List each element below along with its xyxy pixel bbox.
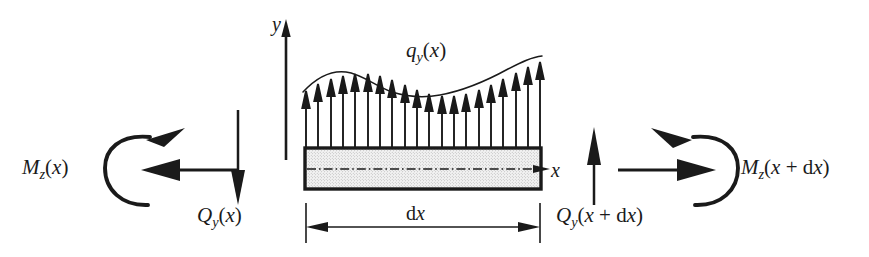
- shear-right-plus: +: [594, 203, 616, 227]
- shear-left-paren-close: ): [235, 203, 242, 227]
- beam-element-equilibrium-figure: Mz(x) Mz(x + dx) Qy(x) Qy(x + dx) qy(x) …: [0, 0, 869, 257]
- moment-right-symbol: M: [741, 155, 759, 179]
- bending-moment-left: [105, 128, 238, 205]
- moment-right-label: Mz(x + dx): [741, 157, 830, 181]
- bending-moment-right: [618, 128, 738, 205]
- distributed-load-argument: x: [430, 38, 439, 62]
- distributed-load-arrows: [302, 62, 543, 148]
- moment-right-differential-x: x: [813, 155, 822, 179]
- moment-right-differential-d: d: [803, 155, 814, 179]
- distributed-load-label: qy(x): [406, 40, 446, 64]
- shear-force-right-arrow: [587, 127, 601, 205]
- shear-right-paren-close: ): [636, 203, 643, 227]
- dx-differential-d: d: [406, 202, 416, 224]
- moment-right-paren-close: ): [823, 155, 830, 179]
- shear-right-paren-open: (: [578, 203, 585, 227]
- distributed-load-symbol: q: [406, 38, 417, 62]
- beam-element-body: [305, 148, 541, 189]
- distributed-load-paren-open: (: [423, 38, 430, 62]
- shear-right-symbol: Q: [556, 203, 571, 227]
- shear-left-argument: x: [226, 203, 235, 227]
- dx-dimension-label: dx: [406, 203, 425, 223]
- moment-left-label: Mz(x): [22, 157, 68, 181]
- dx-differential-x: x: [416, 202, 425, 224]
- moment-right-plus: +: [780, 155, 802, 179]
- shear-left-label: Qy(x): [197, 205, 242, 229]
- y-axis-label: y: [272, 14, 281, 34]
- moment-right-paren-open: (: [764, 155, 771, 179]
- shear-right-differential-d: d: [616, 203, 627, 227]
- moment-right-argument: x: [771, 155, 780, 179]
- distributed-load-paren-close: ): [439, 38, 446, 62]
- shear-right-differential-x: x: [627, 203, 636, 227]
- moment-left-argument: x: [52, 155, 61, 179]
- shear-right-label: Qy(x + dx): [556, 205, 643, 229]
- moment-left-symbol: M: [22, 155, 40, 179]
- x-axis-label: x: [551, 160, 560, 180]
- shear-left-symbol: Q: [197, 203, 212, 227]
- y-axis: [281, 19, 290, 160]
- shear-force-left-arrow: [231, 110, 245, 205]
- shear-left-paren-open: (: [219, 203, 226, 227]
- shear-right-argument: x: [585, 203, 594, 227]
- moment-left-paren-open: (: [45, 155, 52, 179]
- moment-left-paren-close: ): [61, 155, 68, 179]
